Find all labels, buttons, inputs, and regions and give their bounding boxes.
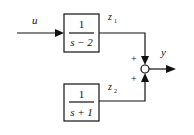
plus-sign-bottom: + [131, 73, 137, 84]
plus-sign-top: + [131, 53, 137, 64]
signal-z1-label: z 1 [107, 11, 117, 24]
transfer-block-2: 1 s + 1 [64, 84, 99, 121]
z2-wire [99, 80, 145, 101]
block-1-numerator: 1 [79, 18, 85, 30]
block-1-denominator: s − 2 [70, 36, 93, 48]
input-arrow-icon [55, 29, 64, 37]
block-2-denominator: s + 1 [70, 106, 93, 118]
signal-z2-label: z 2 [107, 81, 117, 94]
transfer-block-1: 1 s − 2 [64, 14, 99, 52]
z1-arrow-icon [141, 56, 149, 65]
z1-subscript: 1 [114, 18, 117, 24]
output-label: y [160, 46, 166, 58]
output-signal: y [149, 46, 176, 73]
input-signal: u [17, 14, 64, 37]
z2-name: z [107, 81, 112, 92]
block-diagram: u 1 s − 2 z 1 + + y 1 s + 1 z 2 [0, 0, 194, 135]
z1-wire [99, 33, 145, 58]
output-arrow-icon [166, 65, 176, 73]
block-2-numerator: 1 [79, 88, 85, 100]
z2-arrow-icon [141, 73, 149, 82]
z1-name: z [107, 11, 112, 22]
input-label: u [32, 14, 38, 26]
summing-junction-circle [141, 65, 149, 73]
z2-subscript: 2 [114, 88, 117, 94]
